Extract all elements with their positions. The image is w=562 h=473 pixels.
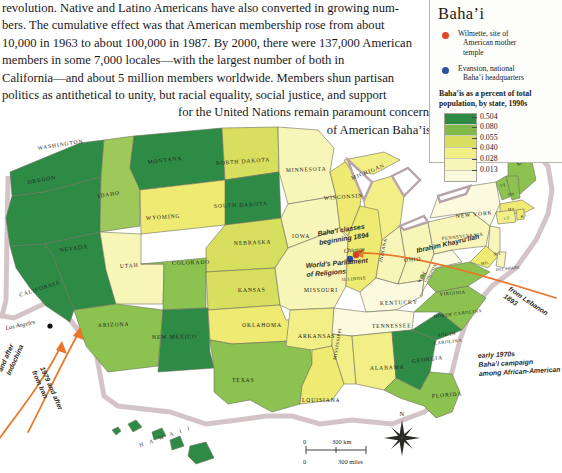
- hawaii-label: H A W A I I: [138, 424, 192, 448]
- legend-marker-wilmette: Wilmette, site of American mother temple: [438, 29, 556, 57]
- route-indochina-to-la: [0, 344, 62, 446]
- from-indochina-label: and afterIndochina: [0, 340, 24, 376]
- legend-value: 0.504: [480, 112, 498, 121]
- state-south-dakota: [225, 172, 281, 225]
- compass-north-label: N: [400, 410, 405, 417]
- state-rhode-island: [516, 209, 524, 220]
- state-connecticut: [496, 210, 516, 224]
- legend-tick: 0.080: [477, 123, 498, 131]
- from-lebanon-label: from Lebanon1893: [502, 285, 549, 324]
- legend-value: 0.040: [480, 143, 498, 152]
- legend-tick: 0.055: [477, 134, 498, 142]
- state-minnesota: [278, 127, 336, 204]
- annotation-line: Indochina: [5, 343, 25, 376]
- legend-tick: 0.504: [477, 113, 498, 121]
- state-hawaii: [112, 420, 214, 464]
- state-delaware: [496, 252, 506, 268]
- legend-value: 0.080: [480, 122, 498, 131]
- scale-bar: 0 300 km 0 300 miles: [303, 438, 366, 465]
- scale-miles-label: 300 miles: [338, 458, 364, 465]
- scale-miles-zero: 0: [303, 458, 306, 465]
- state-new-mexico: [158, 308, 214, 372]
- scale-km-label: 300 km: [332, 438, 351, 445]
- legend-swatches: [444, 113, 477, 182]
- legend-value: 0.013: [480, 165, 498, 174]
- annotation-line: among African-American: [479, 366, 561, 378]
- los-angeles-label: Los Angeles: [4, 318, 36, 331]
- state-alabama: [352, 332, 396, 390]
- legend-value: 0.028: [480, 154, 498, 163]
- evanston-dot-icon: [442, 67, 449, 74]
- annotation-line: Baha’i campaign: [478, 358, 533, 369]
- legend-value: 0.055: [480, 133, 498, 142]
- legend-caption: Baha’is as a percent of total population…: [439, 89, 556, 108]
- legend-title: Baha’i: [438, 4, 556, 24]
- evanston-map-dot: [347, 256, 353, 262]
- legend-tick: 0.028: [477, 155, 498, 163]
- african-american-campaign-note: early 1970sBaha’i campaignamong African-…: [478, 348, 561, 378]
- map-legend: Baha’i Wilmette, site of American mother…: [429, 0, 562, 163]
- legend-swatch: [445, 114, 476, 125]
- wilmette-dot-icon: [442, 32, 449, 39]
- state-texas: [210, 340, 312, 412]
- state-arkansas: [286, 308, 334, 350]
- wilmette-marker-text: Wilmette, site of American mother temple: [458, 29, 516, 57]
- evanston-marker-text: Evanston, national Baha’i headquarters: [458, 64, 524, 83]
- legend-swatch: [445, 171, 476, 181]
- annotation-line: 1893: [502, 292, 519, 306]
- legend-tick: 0.040: [477, 144, 498, 152]
- legend-marker-evanston: Evanston, national Baha’i headquarters: [438, 64, 556, 83]
- state-montana: [130, 128, 225, 190]
- scale-km-zero: 0: [303, 438, 306, 445]
- route-iran-to-la: [28, 330, 80, 432]
- legend-tick: 0.013: [477, 166, 498, 174]
- state-north-dakota: [222, 127, 279, 180]
- state-nebraska: [206, 218, 288, 272]
- state-kansas: [206, 268, 280, 310]
- legend-tick-values: 0.5040.0800.0550.0400.0280.013: [477, 113, 547, 182]
- from-iran-label: 1979 and afterfrom Iran: [31, 366, 65, 415]
- los-angeles-map-dot: [47, 323, 52, 328]
- legend-swatch: [445, 148, 476, 159]
- annotation-line: early 1970s: [478, 350, 516, 360]
- annotation-line: and after: [0, 343, 15, 373]
- state-arizona: [74, 304, 163, 372]
- legend-color-ramp: 0.5040.0800.0550.0400.0280.013: [444, 113, 556, 182]
